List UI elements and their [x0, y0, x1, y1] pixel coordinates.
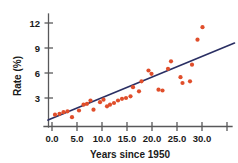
x-tick-label-10: 10.0	[93, 133, 112, 144]
data-point	[98, 100, 102, 104]
data-point	[57, 112, 61, 116]
x-tick-label-25: 25.0	[168, 133, 187, 144]
data-point	[128, 94, 132, 98]
data-point	[101, 98, 105, 102]
chart-canvas: 12 9 6 3 Rate (%) 0.0 5.0 10.0 15.0 20.0…	[0, 0, 238, 163]
y-tick-label-12: 12	[29, 18, 40, 29]
scatter-plot-figure: 12 9 6 3 Rate (%) 0.0 5.0 10.0 15.0 20.0…	[0, 0, 238, 163]
data-point	[77, 108, 81, 112]
data-point	[81, 103, 85, 107]
data-point	[169, 59, 173, 63]
data-point	[108, 103, 112, 107]
data-point	[65, 109, 69, 113]
data-point	[146, 68, 150, 72]
data-point	[112, 101, 116, 105]
data-point	[180, 81, 184, 85]
data-point	[200, 25, 204, 29]
data-point	[156, 88, 160, 92]
data-point	[131, 85, 135, 89]
y-tick-label-3: 3	[35, 93, 40, 104]
data-point	[137, 89, 141, 93]
data-point	[61, 110, 65, 114]
x-tick-label-30: 30.0	[193, 133, 212, 144]
data-point	[195, 38, 199, 42]
data-point	[166, 67, 170, 71]
data-point	[190, 63, 194, 67]
y-tick-label-6: 6	[35, 68, 40, 79]
y-tick-label-9: 9	[35, 43, 40, 54]
x-axis-title: Years since 1950	[90, 149, 171, 160]
data-point	[188, 79, 192, 83]
data-point	[178, 75, 182, 79]
data-point	[85, 102, 89, 106]
data-point	[120, 97, 124, 101]
data-point-group	[53, 25, 205, 119]
data-point	[91, 108, 95, 112]
data-point	[139, 79, 143, 83]
x-tick-label-15: 15.0	[118, 133, 137, 144]
x-tick-label-20: 20.0	[143, 133, 162, 144]
data-point	[70, 115, 74, 119]
x-tick-label-0: 0.0	[45, 133, 58, 144]
y-axis-title: Rate (%)	[12, 56, 23, 96]
data-point	[88, 98, 92, 102]
data-point	[116, 98, 120, 102]
data-point	[149, 72, 153, 76]
data-point	[124, 96, 128, 100]
x-tick-label-5: 5.0	[70, 133, 83, 144]
data-point	[160, 88, 164, 92]
data-point	[53, 113, 57, 117]
